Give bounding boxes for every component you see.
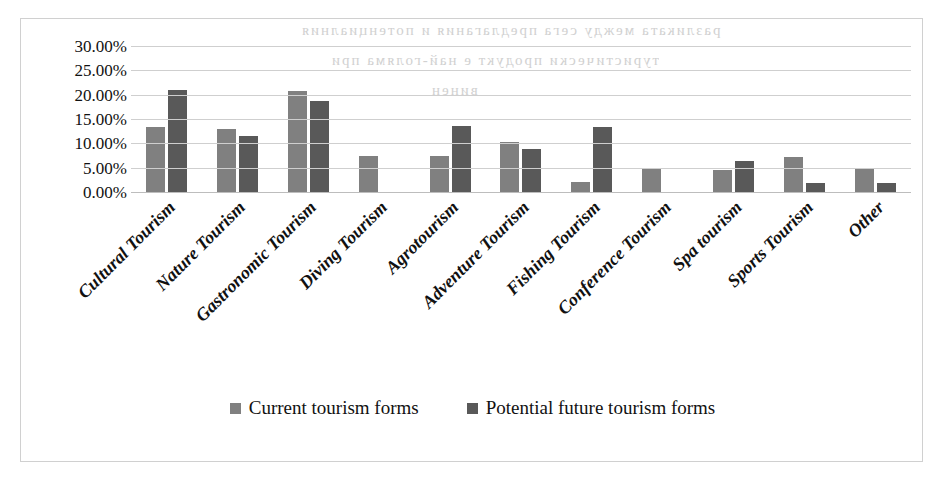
legend-label: Current tourism forms xyxy=(249,397,419,419)
bar xyxy=(522,149,541,192)
gridline xyxy=(131,46,911,47)
gridline xyxy=(131,143,911,144)
gridline xyxy=(131,95,911,96)
legend-label: Potential future tourism forms xyxy=(486,397,716,419)
y-axis: 30.00%25.00%20.00%15.00%10.00%5.00%0.00% xyxy=(35,41,127,196)
bar xyxy=(784,157,803,192)
bar xyxy=(146,127,165,192)
gridline xyxy=(131,119,911,120)
chart-plot-wrapper: 30.00%25.00%20.00%15.00%10.00%5.00%0.00%… xyxy=(21,19,924,463)
y-tick-label: 30.00% xyxy=(75,38,127,55)
bar xyxy=(735,161,754,192)
x-axis-label: Other xyxy=(843,197,888,242)
bar xyxy=(430,156,449,193)
bar xyxy=(806,183,825,192)
bar xyxy=(877,183,896,192)
y-tick-label: 20.00% xyxy=(75,86,127,103)
gridline xyxy=(131,168,911,169)
bar xyxy=(452,126,471,192)
gridline xyxy=(131,70,911,71)
bar xyxy=(168,90,187,192)
bar xyxy=(217,129,236,192)
bar xyxy=(359,156,378,193)
legend-item[interactable]: Potential future tourism forms xyxy=(467,397,716,419)
y-tick-label: 10.00% xyxy=(75,135,127,152)
bar xyxy=(310,101,329,192)
legend-swatch-icon xyxy=(230,403,241,414)
bar xyxy=(642,169,661,192)
legend-item[interactable]: Current tourism forms xyxy=(230,397,419,419)
x-axis-label: Gastronomic Tourism xyxy=(192,197,321,326)
chart-figure-frame: 30.00%25.00%20.00%15.00%10.00%5.00%0.00%… xyxy=(20,18,923,462)
y-tick-label: 25.00% xyxy=(75,62,127,79)
y-tick-label: 15.00% xyxy=(75,111,127,128)
legend-swatch-icon xyxy=(467,403,478,414)
bar xyxy=(288,91,307,192)
plot-area xyxy=(131,46,911,192)
y-tick-label: 5.00% xyxy=(83,159,127,176)
x-axis-category-labels: Cultural TourismNature TourismGastronomi… xyxy=(131,193,911,343)
bar xyxy=(593,127,612,192)
bar xyxy=(713,170,732,192)
y-tick-label: 0.00% xyxy=(83,184,127,201)
bar xyxy=(571,182,590,192)
bar xyxy=(855,169,874,192)
chart-legend: Current tourism formsPotential future to… xyxy=(21,397,924,419)
